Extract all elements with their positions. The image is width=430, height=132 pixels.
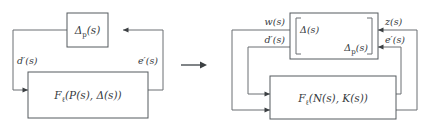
arrowhead-into-fl-left [23,87,29,92]
transform-arrow [181,62,207,69]
right-feedback-path-dprime [248,47,290,94]
lft-p-delta-block-left-label: Fℓ(P(s), Δ(s)) [53,89,121,104]
signal-label-eprime-right: e′(s) [385,34,405,45]
arrowhead-into-fl-right-upper [265,91,271,96]
right-diagram: Δ(s) Δp(s) Fℓ(N(s), K(s)) w(s) d′(s) z(s… [232,13,417,119]
left-diagram: Δp(s) Fℓ(P(s), Δ(s)) d′(s) e′(s) [13,13,163,118]
signal-label-dprime-left: d′(s) [17,55,38,66]
delta-p-block-entry-bottom: Δp(s) [343,42,368,56]
arrowhead-into-deltap-left [123,27,129,32]
delta-block-entry-top: Δ(s) [299,24,319,35]
block-diagram-figure: Δp(s) Fℓ(P(s), Δ(s)) d′(s) e′(s) [0,0,430,132]
arrowhead-into-deltap-right [378,44,384,49]
transform-arrow-head [200,62,207,69]
arrowhead-into-delta-right [378,27,384,32]
lft-n-k-block-right-label: Fℓ(N(s), K(s)) [297,92,368,107]
signal-label-w-right: w(s) [265,16,286,27]
signal-label-dprime-right: d′(s) [264,34,285,45]
right-forward-path-eprime [378,47,401,94]
delta-p-block-left-label: Δp(s) [74,24,101,39]
signal-label-eprime-left: e′(s) [138,55,158,66]
arrowhead-into-fl-right-lower [265,107,271,112]
diagram-canvas: Δp(s) Fℓ(P(s), Δ(s)) d′(s) e′(s) [0,0,430,132]
signal-label-z-right: z(s) [384,16,403,27]
